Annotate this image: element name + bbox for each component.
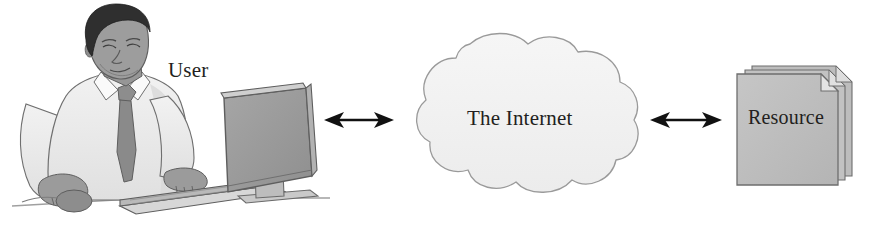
person-right-hand xyxy=(164,168,207,191)
document-folded-corner-back xyxy=(836,66,852,82)
user-node-label: User xyxy=(168,58,208,83)
network-diagram: User The Internet Resource xyxy=(0,0,885,231)
computer-mouse xyxy=(56,190,92,212)
person-at-computer-illustration xyxy=(12,4,330,214)
connector-user-internet xyxy=(324,112,394,128)
internet-node-label: The Internet xyxy=(467,106,573,131)
monitor-panel xyxy=(224,88,312,192)
connector-internet-resource xyxy=(650,112,722,128)
resource-node-label: Resource xyxy=(748,106,824,129)
